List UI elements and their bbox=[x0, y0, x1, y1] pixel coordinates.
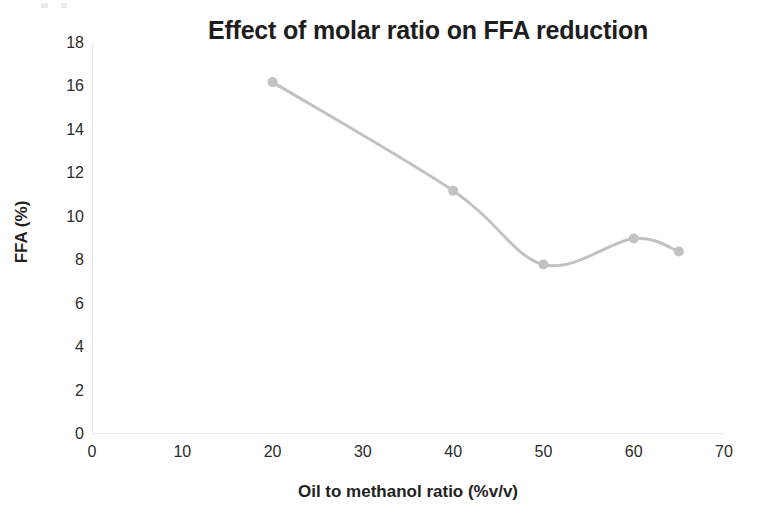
x-tick-label: 40 bbox=[428, 444, 478, 460]
x-tick-label: 60 bbox=[609, 444, 659, 460]
x-tick-label: 10 bbox=[157, 444, 207, 460]
data-point-marker bbox=[674, 247, 684, 257]
data-point-marker bbox=[629, 234, 639, 244]
chart-figure: Effect of molar ratio on FFA reduction F… bbox=[0, 0, 760, 532]
series-path bbox=[273, 82, 679, 266]
plot-area bbox=[92, 43, 724, 434]
series-line-ffa-reduction bbox=[92, 43, 724, 434]
x-tick-label: 50 bbox=[518, 444, 568, 460]
x-tick-label: 30 bbox=[338, 444, 388, 460]
data-point-marker bbox=[538, 260, 548, 270]
x-tick-label: 20 bbox=[248, 444, 298, 460]
x-tick-label: 70 bbox=[699, 444, 749, 460]
data-point-marker bbox=[268, 77, 278, 87]
x-tick-label: 0 bbox=[67, 444, 117, 460]
data-point-marker bbox=[448, 186, 458, 196]
